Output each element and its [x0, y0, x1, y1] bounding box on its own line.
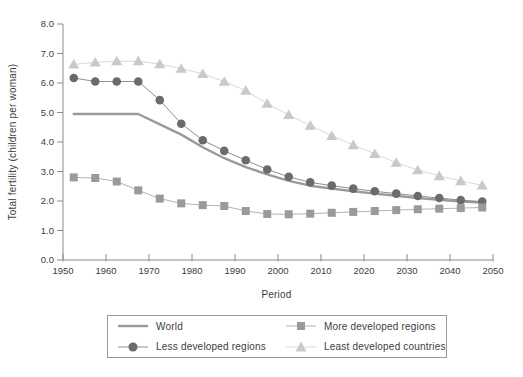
- data-point-marker: [134, 77, 143, 86]
- data-point-marker: [412, 165, 423, 175]
- x-axis-ticks: 1950196019701980199020002010202020302040…: [52, 254, 503, 276]
- x-tick-label: 2020: [353, 265, 374, 276]
- legend-label-least-developed: Least developed countries: [324, 341, 446, 352]
- legend-item-least-developed: Least developed countries: [284, 339, 446, 355]
- x-tick-label: 1980: [181, 265, 202, 276]
- data-point-marker: [284, 173, 293, 182]
- legend-more-marker: [297, 322, 305, 330]
- series-least-developed-countries: [68, 56, 488, 190]
- legend-item-world: World: [116, 318, 284, 334]
- y-tick-label: 5.0: [41, 107, 54, 118]
- y-tick-label: 6.0: [41, 77, 54, 88]
- data-point-marker: [240, 85, 251, 95]
- data-point-marker: [241, 156, 250, 165]
- data-point-marker: [349, 184, 358, 193]
- data-point-marker: [414, 205, 422, 213]
- data-point-marker: [113, 178, 121, 186]
- data-point-marker: [349, 208, 357, 216]
- y-tick-label: 4.0: [41, 136, 54, 147]
- fertility-chart-plot: 0.01.02.03.04.05.06.07.08.01950196019701…: [0, 0, 523, 285]
- data-point-marker: [457, 204, 465, 212]
- legend-label-world: World: [156, 321, 183, 332]
- y-tick-label: 1.0: [41, 225, 54, 236]
- x-tick-label: 2040: [439, 265, 460, 276]
- data-point-marker: [392, 189, 401, 198]
- data-point-marker: [305, 120, 316, 130]
- data-point-marker: [70, 173, 78, 181]
- y-tick-label: 7.0: [41, 48, 54, 59]
- y-tick-label: 2.0: [41, 195, 54, 206]
- legend-box: World Less developed regions More develo…: [107, 315, 447, 358]
- data-point-marker: [369, 148, 380, 158]
- data-point-marker: [306, 210, 314, 218]
- series-more-developed-regions: [70, 173, 487, 218]
- chart-screenshot: 0.01.02.03.04.05.06.07.08.01950196019701…: [0, 0, 523, 377]
- y-axis-label: Total fertility (children per woman): [7, 47, 21, 237]
- data-point-marker: [134, 186, 142, 194]
- data-point-marker: [198, 136, 207, 145]
- x-tick-label: 2010: [310, 265, 331, 276]
- data-point-marker: [156, 195, 164, 203]
- data-point-marker: [435, 205, 443, 213]
- square-marker-icon: [284, 318, 318, 334]
- data-point-marker: [478, 203, 486, 211]
- data-point-marker: [283, 109, 294, 119]
- data-point-marker: [242, 207, 250, 215]
- data-point-marker: [220, 147, 229, 156]
- legend-label-less-developed: Less developed regions: [156, 341, 266, 352]
- data-point-marker: [263, 210, 271, 218]
- data-point-marker: [371, 207, 379, 215]
- data-point-marker: [285, 210, 293, 218]
- x-tick-label: 2030: [396, 265, 417, 276]
- x-tick-label: 2050: [482, 265, 503, 276]
- data-point-marker: [199, 201, 207, 209]
- data-point-marker: [91, 174, 99, 182]
- x-tick-label: 1990: [224, 265, 245, 276]
- data-point-marker: [262, 98, 273, 108]
- data-point-marker: [112, 77, 121, 86]
- triangle-marker-icon: [284, 339, 318, 355]
- x-tick-label: 1970: [138, 265, 159, 276]
- data-point-marker: [348, 140, 359, 150]
- legend-item-more-developed: More developed regions: [284, 318, 446, 334]
- y-tick-label: 8.0: [41, 18, 54, 29]
- legend-item-less-developed: Less developed regions: [116, 339, 284, 355]
- x-tick-label: 1960: [95, 265, 116, 276]
- data-point-marker: [370, 187, 379, 196]
- circle-marker-icon: [116, 339, 150, 355]
- data-point-marker: [306, 178, 315, 187]
- data-point-marker: [69, 74, 78, 83]
- data-point-marker: [456, 196, 465, 205]
- data-point-marker: [91, 77, 100, 86]
- legend-label-more-developed: More developed regions: [324, 321, 436, 332]
- data-point-marker: [413, 192, 422, 201]
- y-tick-label: 0.0: [41, 254, 54, 265]
- data-point-marker: [391, 157, 402, 167]
- y-tick-label: 3.0: [41, 166, 54, 177]
- y-axis-ticks: 0.01.02.03.04.05.06.07.08.0: [41, 18, 63, 265]
- series-less-developed-regions: [69, 74, 486, 206]
- data-point-marker: [327, 181, 336, 190]
- data-point-marker: [392, 206, 400, 214]
- series-least-developed-countries-markers: [68, 56, 488, 190]
- series-less-developed-regions-markers: [69, 74, 486, 206]
- data-point-marker: [220, 202, 228, 210]
- world-line-icon: [116, 318, 150, 334]
- data-point-marker: [435, 194, 444, 203]
- series-less-developed-regions-line: [74, 78, 483, 202]
- x-tick-label: 1950: [52, 265, 73, 276]
- x-tick-label: 2000: [267, 265, 288, 276]
- data-point-marker: [177, 119, 186, 128]
- data-point-marker: [111, 56, 122, 66]
- data-point-marker: [328, 209, 336, 217]
- legend-less-marker: [129, 342, 138, 351]
- axes: [63, 24, 493, 260]
- series-more-developed-regions-markers: [70, 173, 487, 218]
- data-point-marker: [177, 199, 185, 207]
- x-axis-label: Period: [15, 289, 523, 300]
- data-point-marker: [155, 96, 164, 105]
- data-point-marker: [133, 56, 144, 66]
- data-point-marker: [263, 165, 272, 174]
- data-point-marker: [219, 76, 230, 86]
- data-point-marker: [326, 130, 337, 140]
